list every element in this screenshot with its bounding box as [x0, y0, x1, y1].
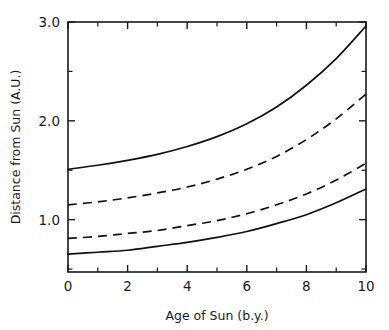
x-axis-title: Age of Sun (b.y.) [165, 308, 268, 323]
y-tick-label: 2.0 [39, 113, 60, 129]
chart-background [0, 0, 389, 330]
y-tick-label: 1.0 [39, 212, 60, 228]
x-tick-label: 10 [357, 278, 374, 294]
x-tick-label: 6 [243, 278, 252, 294]
habitable-zone-line-chart: 02468101.02.03.0 Age of Sun (b.y.) Dista… [0, 0, 389, 330]
y-tick-label: 3.0 [39, 14, 60, 30]
chart-figure: 02468101.02.03.0 Age of Sun (b.y.) Dista… [0, 0, 389, 330]
x-tick-label: 4 [183, 278, 192, 294]
x-tick-label: 0 [64, 278, 73, 294]
y-axis-title: Distance from Sun (A.U.) [8, 70, 23, 225]
x-tick-label: 8 [302, 278, 311, 294]
x-tick-label: 2 [123, 278, 132, 294]
